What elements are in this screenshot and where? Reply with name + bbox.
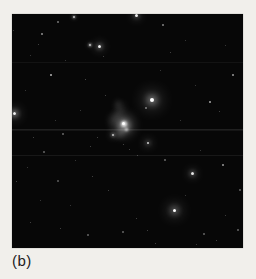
star [232, 74, 234, 76]
star [70, 205, 71, 206]
star [57, 180, 59, 182]
star [103, 56, 104, 57]
star [13, 112, 16, 115]
star [160, 70, 161, 71]
star [112, 134, 114, 136]
star [92, 176, 93, 177]
star [219, 111, 220, 112]
star [137, 155, 138, 156]
galaxy-blob [116, 131, 124, 138]
star [30, 222, 31, 223]
star [185, 40, 186, 41]
star [239, 189, 241, 191]
star [50, 74, 52, 76]
star [60, 228, 61, 229]
star [40, 200, 41, 201]
star [97, 137, 98, 138]
star [85, 79, 86, 80]
star [98, 45, 101, 48]
star [75, 160, 76, 161]
star [225, 45, 226, 46]
star [27, 167, 28, 168]
star [13, 30, 14, 31]
star [216, 240, 217, 241]
star [38, 44, 39, 45]
star [170, 52, 171, 53]
star [43, 151, 45, 153]
star [25, 90, 26, 91]
star [237, 229, 239, 231]
star [191, 172, 194, 175]
star [108, 190, 109, 191]
astronomy-image [12, 14, 243, 248]
star [225, 215, 226, 216]
star [62, 133, 64, 135]
star [33, 137, 34, 138]
star [55, 120, 56, 121]
star [87, 234, 89, 236]
star [122, 231, 124, 233]
star [129, 149, 130, 150]
star [89, 44, 91, 46]
scan-line-artifact [12, 130, 243, 131]
star [145, 107, 147, 109]
star [150, 98, 154, 102]
star [203, 233, 205, 235]
star [209, 101, 211, 103]
star [73, 16, 75, 18]
star [135, 14, 138, 17]
star [200, 150, 201, 151]
star [65, 60, 66, 61]
star [162, 24, 164, 26]
star [147, 142, 149, 144]
star [57, 21, 59, 23]
star [123, 144, 124, 145]
star [80, 110, 81, 111]
scan-line-artifact [12, 155, 243, 156]
galaxy-blob [109, 114, 118, 126]
scan-line-artifact [12, 62, 243, 63]
star [105, 95, 106, 96]
star [90, 146, 91, 147]
star [195, 85, 196, 86]
figure-panel: (b) [0, 0, 256, 279]
star [173, 209, 176, 212]
star [41, 33, 43, 35]
figure-label: (b) [12, 252, 32, 269]
star [196, 244, 197, 245]
star [185, 195, 186, 196]
star [222, 164, 224, 166]
star [30, 55, 31, 56]
star [136, 218, 137, 219]
galaxy-blob [122, 122, 125, 125]
star [147, 230, 148, 231]
star [155, 243, 156, 244]
star [164, 159, 166, 161]
star [180, 120, 181, 121]
star [16, 181, 17, 182]
